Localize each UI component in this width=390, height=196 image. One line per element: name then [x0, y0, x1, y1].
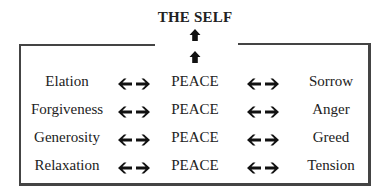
- negative-emotion: Anger: [296, 101, 366, 118]
- positive-emotion: Forgiveness: [22, 101, 112, 118]
- positive-emotion: Relaxation: [22, 157, 112, 174]
- box-bottom-border: [19, 183, 371, 186]
- negative-emotion: Sorrow: [296, 73, 366, 90]
- center-peace-label: PEACE: [160, 157, 230, 174]
- negative-emotion: Tension: [296, 157, 366, 174]
- diagram-title: THE SELF: [0, 9, 390, 26]
- left-right-arrow-icon: [117, 133, 151, 147]
- box-top-right-border: [238, 43, 370, 45]
- box-top-left-border: [19, 44, 155, 46]
- up-arrow-icon: [188, 50, 202, 64]
- left-right-arrow-icon: [246, 133, 280, 147]
- positive-emotion: Generosity: [22, 129, 112, 146]
- left-right-arrow-icon: [246, 161, 280, 175]
- negative-emotion: Greed: [296, 129, 366, 146]
- left-right-arrow-icon: [117, 105, 151, 119]
- left-right-arrow-icon: [246, 105, 280, 119]
- left-right-arrow-icon: [117, 77, 151, 91]
- box-left-border: [19, 44, 21, 185]
- center-peace-label: PEACE: [160, 129, 230, 146]
- box-right-border: [368, 43, 371, 185]
- positive-emotion: Elation: [22, 73, 112, 90]
- center-peace-label: PEACE: [160, 101, 230, 118]
- center-peace-label: PEACE: [160, 73, 230, 90]
- up-arrow-icon: [188, 28, 202, 42]
- left-right-arrow-icon: [117, 161, 151, 175]
- left-right-arrow-icon: [246, 77, 280, 91]
